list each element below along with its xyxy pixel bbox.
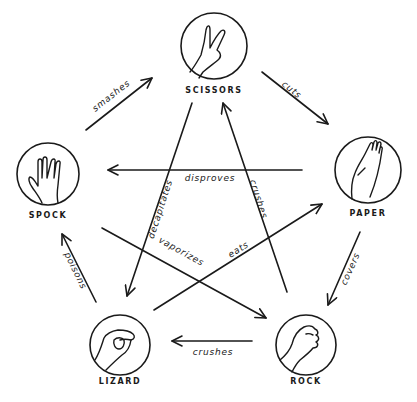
lizard-label: LIZARD — [99, 377, 141, 386]
spock-hand-icon — [29, 157, 60, 203]
lizard-circle — [90, 315, 150, 375]
rock-circle — [276, 315, 336, 375]
scissors-label: SCISSORS — [185, 86, 242, 95]
verb-smashes: smashes — [90, 78, 132, 114]
verb-covers: covers — [339, 251, 362, 287]
rock-fist-icon — [280, 326, 319, 372]
verb-disproves: disproves — [185, 173, 236, 183]
scissors-circle — [181, 13, 247, 79]
node-scissors: SCISSORS — [181, 13, 247, 95]
lizard-hand-icon — [95, 330, 134, 370]
rpsls-diagram: SCISSORS PAPER ROCK LIZARD SPOCK — [0, 0, 417, 402]
verb-crushes-scissors: crushes — [248, 178, 270, 220]
verb-poisons: poisons — [62, 250, 89, 291]
edge-scissors-decapitates-lizard: decapitates — [127, 103, 192, 296]
edge-paper-covers-rock: covers — [328, 232, 362, 305]
spock-label: SPOCK — [29, 211, 68, 220]
rock-label: ROCK — [290, 377, 321, 386]
edge-rock-crushes-lizard: crushes — [172, 341, 252, 357]
edge-lizard-eats-paper: eats — [154, 204, 322, 310]
node-spock: SPOCK — [17, 143, 79, 220]
edge-lizard-poisons-spock: poisons — [62, 234, 96, 302]
node-paper: PAPER — [335, 137, 401, 218]
node-lizard: LIZARD — [90, 315, 150, 386]
edge-scissors-cuts-paper: cuts — [262, 72, 328, 124]
arrow-eats — [154, 204, 322, 310]
paper-label: PAPER — [350, 209, 387, 218]
scissors-hand-icon — [190, 26, 225, 78]
edge-paper-disproves-spock: disproves — [108, 170, 302, 183]
paper-hand-icon — [352, 141, 383, 199]
edge-spock-smashes-scissors: smashes — [86, 78, 152, 130]
edge-rock-crushes-scissors: crushes — [223, 103, 287, 292]
node-rock: ROCK — [276, 315, 336, 386]
verb-crushes-lizard: crushes — [193, 347, 234, 357]
verb-decapitates: decapitates — [146, 178, 175, 240]
